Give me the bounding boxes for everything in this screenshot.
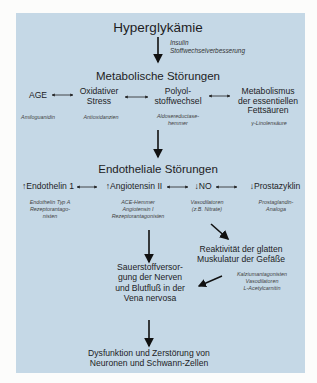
node-no: ↓NO bbox=[194, 182, 211, 192]
title-intervention: Insulin Stoffwechselverbesserung bbox=[170, 39, 245, 55]
intervention-no: Vasodilatoren (z.B. Nitrate) bbox=[191, 199, 224, 213]
intervention-polyol: Aldosereductase- hemmer bbox=[157, 113, 199, 127]
line: Prostaglandin- bbox=[259, 199, 294, 206]
line: und Blutfluß in der bbox=[115, 283, 185, 293]
node-age: AGE bbox=[29, 91, 47, 101]
intervention-prostazyklin: Prostaglandin- Analoga bbox=[259, 199, 294, 213]
line: Fettsäuren bbox=[238, 106, 298, 116]
node-angiotensin: ↑Angiotensin II bbox=[106, 182, 162, 192]
node-oxygen-supply: Sauerstoffversor- gung der Nerven und Bl… bbox=[115, 262, 185, 303]
intervention-endothelin: Endothelin Typ A Rezeptorantago- nisten bbox=[30, 199, 70, 219]
line: (z.B. Nitrate) bbox=[191, 206, 224, 213]
endothelial-title: Endotheliale Störungen bbox=[98, 163, 218, 176]
node-polyol: Polyol- stoffwechsel bbox=[154, 87, 201, 106]
intervention-oxidative: Antioxidanzien bbox=[83, 114, 118, 121]
node-oxidative-stress: Oxidativer Stress bbox=[80, 87, 119, 106]
node-fatty-acids: Metabolismus der essentiellen Fettsäuren bbox=[238, 87, 298, 116]
line: Endothelin Typ A bbox=[30, 199, 70, 206]
line: Dysfunktion und Zerstörung von bbox=[88, 348, 210, 358]
line: Aldosereductase- bbox=[157, 113, 199, 120]
line: Vasodilatoren bbox=[191, 199, 224, 206]
intervention-reactivity: Kalziumantagonisten Vasodilatoren L-Acet… bbox=[237, 271, 287, 291]
intervention-angiotensin: ACE-Hemmer Angiotensin I Rezeptorantagon… bbox=[112, 199, 165, 219]
line: Kalziumantagonisten bbox=[237, 271, 287, 278]
line: ACE-Hemmer bbox=[112, 199, 165, 206]
node-endothelin: ↑Endothelin 1 bbox=[22, 182, 74, 192]
intervention-line: Insulin bbox=[170, 39, 245, 47]
intervention-line: Stoffwechselverbesserung bbox=[170, 47, 245, 55]
line: nisten bbox=[30, 213, 70, 220]
line: Rezeptorantago- bbox=[30, 206, 70, 213]
hyperglykaemie-title: Hyperglykämie bbox=[113, 20, 202, 35]
line: Neuronen und Schwann-Zellen bbox=[88, 358, 210, 368]
line: Vasodilatoren bbox=[237, 278, 287, 285]
line: Stress bbox=[80, 97, 119, 107]
line: Angiotensin I bbox=[112, 206, 165, 213]
node-outcome: Dysfunktion und Zerstörung von Neuronen … bbox=[88, 348, 210, 369]
line: L-Acetylcarnitin bbox=[237, 285, 287, 292]
line: Muskulatur der Gefäße bbox=[197, 255, 285, 265]
line: hemmer bbox=[157, 120, 199, 127]
node-prostazyklin: ↓Prostazyklin bbox=[250, 182, 301, 192]
line: Rezeptorantagonisten bbox=[112, 213, 165, 220]
node-reactivity: Reaktivität der glatten Muskulatur der G… bbox=[197, 245, 285, 264]
metabolic-title: Metabolische Störungen bbox=[96, 70, 220, 83]
line: gung der Nerven bbox=[115, 272, 185, 282]
intervention-age: Amiloguanidin bbox=[21, 114, 55, 121]
line: Sauerstoffversor- bbox=[115, 262, 185, 272]
line: Vena nervosa bbox=[115, 293, 185, 303]
line: stoffwechsel bbox=[154, 97, 201, 107]
line: Analoga bbox=[259, 206, 294, 213]
intervention-fatty-acids: γ-Linolensäure bbox=[251, 120, 286, 127]
